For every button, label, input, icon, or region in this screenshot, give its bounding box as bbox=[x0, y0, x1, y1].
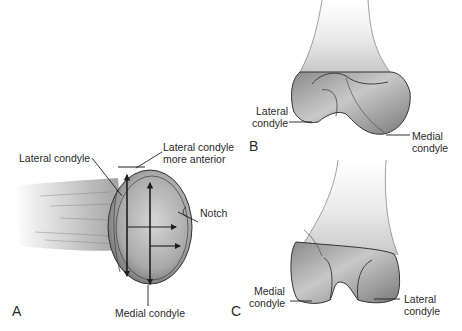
panel-c-lateral-label-line1: Lateral bbox=[404, 293, 436, 305]
panel-a-lateral-anterior-label-line2: more anterior bbox=[163, 153, 225, 165]
panel-b-medial-label-line2: condyle bbox=[412, 142, 448, 154]
panel-a-letter: A bbox=[12, 303, 21, 319]
panel-b-lateral-label-line2: condyle bbox=[252, 117, 288, 129]
panel-a-illustration bbox=[0, 0, 462, 331]
panel-b-lateral-label-line1: Lateral bbox=[256, 105, 288, 117]
panel-c-letter: C bbox=[231, 303, 241, 319]
panel-a-medial-condyle-label: Medial condyle bbox=[115, 307, 185, 319]
anatomy-figure: Lateral condyle Lateral condyle more ant… bbox=[0, 0, 462, 331]
panel-a-lateral-anterior-label-line1: Lateral condyle bbox=[163, 141, 234, 153]
panel-c-medial-label-line2: condyle bbox=[249, 297, 285, 309]
panel-c-lateral-label-line2: condyle bbox=[404, 305, 440, 317]
panel-c-medial-label-line1: Medial bbox=[254, 285, 285, 297]
panel-b-letter: B bbox=[249, 138, 258, 154]
panel-a-lateral-condyle-label: Lateral condyle bbox=[19, 152, 90, 164]
panel-b-medial-label-line1: Medial bbox=[412, 130, 443, 142]
panel-a-notch-label: Notch bbox=[200, 207, 227, 219]
